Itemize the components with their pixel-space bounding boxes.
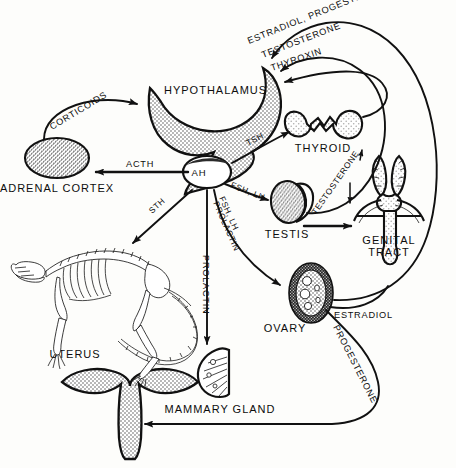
endocrine-diagram-canvas: HYPOTHALAMUS AH ADRENAL CORTEX THYROID T… xyxy=(0,0,456,468)
organ-ah[interactable]: AH xyxy=(183,156,231,188)
organ-skeleton[interactable] xyxy=(11,248,197,389)
prolactin-mammary-label: PROLACTIN xyxy=(201,255,211,314)
thyroid-label: THYROID xyxy=(295,142,352,154)
mammary-gland-label: MAMMARY GLAND xyxy=(164,403,275,415)
arrow-prolactin-mammary[interactable]: PROLACTIN xyxy=(201,190,211,344)
fsh-lh-testis-label: FSH, LH xyxy=(229,180,266,203)
ovary-label: OVARY xyxy=(264,322,307,334)
estradiol-progesterone-label: ESTRADIOL, PROGESTERONE xyxy=(246,0,391,46)
organ-thyroid[interactable]: THYROID xyxy=(285,111,362,154)
arrow-fsh-lh-testis[interactable]: FSH, LH xyxy=(225,180,268,203)
sth-label: STH xyxy=(147,196,167,216)
organ-genital-tract[interactable]: GENITAL TRACT xyxy=(354,156,424,264)
ah-label: AH xyxy=(192,167,207,178)
arrow-testosterone-genital[interactable]: TESTOSTERONE xyxy=(304,149,362,226)
testosterone-genital-label: TESTOSTERONE xyxy=(309,149,360,217)
estradiol-label: ESTRADIOL xyxy=(334,310,393,320)
adrenal-cortex-label: ADRENAL CORTEX xyxy=(0,182,114,194)
organ-ovary[interactable]: OVARY xyxy=(264,263,333,334)
endocrine-feedback-diagram: HYPOTHALAMUS AH ADRENAL CORTEX THYROID T… xyxy=(0,0,456,468)
organ-testis[interactable]: TESTIS xyxy=(265,179,313,240)
organ-adrenal-cortex[interactable]: ADRENAL CORTEX xyxy=(0,138,114,194)
acth-label: ACTH xyxy=(126,159,154,169)
arrow-sth[interactable]: STH xyxy=(133,190,192,243)
arrow-corticoids[interactable]: CORTICOIDS xyxy=(44,90,137,139)
testis-label: TESTIS xyxy=(265,228,310,240)
genital-tract-label-line2: TRACT xyxy=(368,246,410,258)
hypothalamus-label: HYPOTHALAMUS xyxy=(164,84,267,96)
arrow-acth[interactable]: ACTH xyxy=(96,159,188,172)
arrow-estradiol[interactable]: ESTRADIOL xyxy=(330,286,393,320)
corticoids-label: CORTICOIDS xyxy=(48,90,109,132)
genital-tract-label-line1: GENITAL xyxy=(362,234,415,246)
arrow-thyroxin[interactable]: THYROXIN xyxy=(269,46,387,117)
